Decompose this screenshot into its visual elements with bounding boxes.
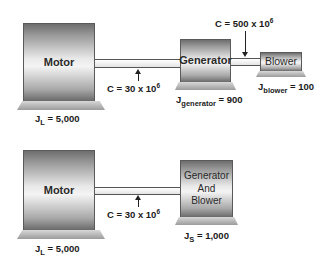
top-generator-base (175, 82, 236, 90)
bottom-combined-label-line1: Generator (184, 170, 229, 183)
top-shaft2-stiffness-label: C = 500 x 106 (215, 17, 273, 29)
top-generator: Generator (180, 39, 231, 83)
top-blower: Blower (260, 52, 302, 72)
top-blower-base (256, 71, 306, 77)
bottom-combined-label-line2: And (198, 183, 216, 196)
bottom-motor-inertia-label: JL = 5,000 (35, 243, 80, 257)
top-blower-label: Blower (265, 55, 297, 68)
top-motor-label: Motor (44, 56, 75, 70)
top-generator-label: Generator (179, 54, 232, 68)
bottom-shaft1-arrow-line (138, 199, 139, 207)
top-shaft2-arrow-line (245, 31, 246, 52)
top-generator-inertia-label: Jgenerator = 900 (176, 94, 243, 108)
top-shaft-generator-blower (229, 58, 261, 66)
bottom-combined-label-line3: Blower (191, 195, 222, 208)
top-shaft2-arrow-icon (242, 52, 248, 57)
bottom-motor-label: Motor (44, 184, 75, 198)
bottom-shaft1-stiffness-label: C = 30 x 106 (107, 208, 160, 220)
bottom-combined-inertia-label: JS = 1,000 (184, 230, 229, 244)
bottom-motor-base (17, 230, 105, 239)
bottom-motor: Motor (23, 150, 95, 231)
bottom-shaft-motor-combined (94, 187, 181, 195)
top-shaft1-arrow-line (138, 73, 139, 81)
top-blower-inertia-label: Jblower = 100 (258, 81, 314, 95)
bottom-generator-blower-base (175, 217, 238, 225)
top-motor: Motor (23, 23, 95, 102)
top-shaft-motor-generator (94, 59, 181, 68)
top-motor-base (17, 101, 105, 110)
bottom-generator-blower: Generator And Blower (180, 160, 233, 218)
top-shaft1-stiffness-label: C = 30 x 106 (107, 82, 160, 94)
top-motor-inertia-label: JL = 5,000 (35, 113, 80, 127)
